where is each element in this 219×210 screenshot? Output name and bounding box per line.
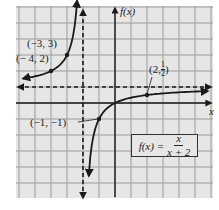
formula-denominator: x + 2 (167, 146, 190, 158)
point-neg3-3 (65, 53, 69, 57)
formula-box: f(x) = x x + 2 (131, 134, 198, 157)
formula-lhs: f(x) = (139, 140, 164, 152)
label-point-neg1-neg1: (−1, −1) (30, 117, 66, 128)
label-point-2-half: (2, 1 2 ) (149, 61, 169, 78)
label-point-2-half-prefix: (2, (149, 64, 161, 75)
x-axis-label: x (209, 106, 214, 117)
label-point-neg3-3: (−3, 3) (27, 38, 57, 49)
point-neg4-2 (49, 69, 53, 73)
y-axis-label: f(x) (120, 6, 135, 17)
formula-numerator: x (174, 133, 183, 146)
formula-fraction: x x + 2 (167, 133, 190, 158)
label-point-neg4-2: (− 4, 2) (16, 53, 49, 64)
label-point-2-half-suffix: ) (165, 64, 169, 75)
function-graph (0, 0, 219, 210)
